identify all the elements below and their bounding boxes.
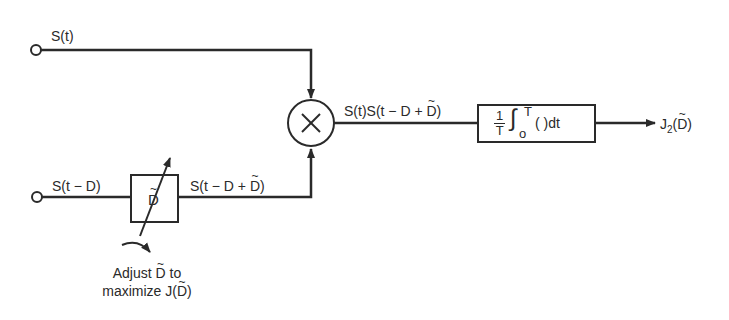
delayed-signal-label: S(t − D + D): [190, 178, 265, 194]
output-label: J2(D): [660, 116, 692, 135]
adjust-note: Adjust D to maximize J(D): [82, 264, 212, 300]
integral-sign: ∫: [510, 104, 517, 132]
integrator-fraction: 1 T: [494, 109, 505, 138]
delay-symbol-text: D: [148, 191, 159, 208]
top-input-terminal: [31, 45, 41, 55]
adjust-note-line2: maximize J(D): [82, 282, 212, 300]
product-label: S(t)S(t − D + D): [344, 103, 441, 119]
bottom-input-terminal: [32, 192, 42, 202]
delay-symbol: D: [148, 191, 159, 208]
top-input-label: S(t): [51, 28, 74, 44]
multiplier-node: [288, 100, 334, 146]
upper-limit: T: [524, 104, 532, 119]
adjust-note-line1: Adjust D to: [82, 264, 212, 282]
top-signal-wire: [41, 50, 311, 98]
lower-limit: o: [519, 126, 526, 141]
integrand: ( )dt: [535, 115, 560, 131]
bottom-input-label: S(t − D): [52, 178, 101, 194]
